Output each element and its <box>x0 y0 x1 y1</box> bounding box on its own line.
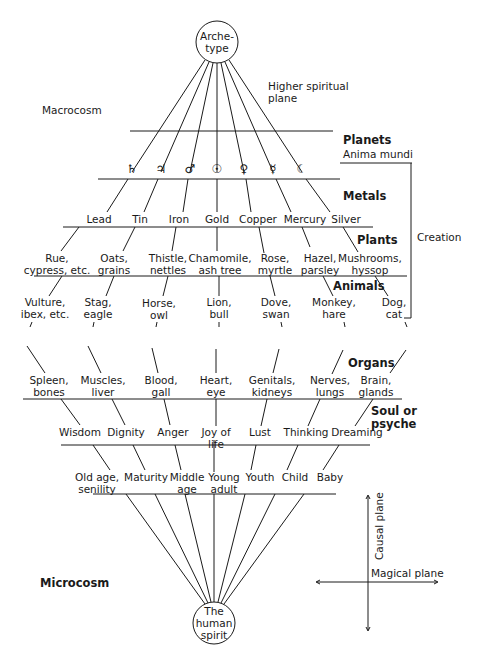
psyche-item: Dreaming <box>331 426 383 438</box>
animal-item: Horse, owl <box>142 297 176 321</box>
psyche-item: Joy of life <box>201 426 230 450</box>
psyche-item: Wisdom <box>59 426 101 438</box>
diagram-lines <box>0 0 477 664</box>
plant-item: Oats, grains <box>98 252 130 276</box>
organ-item: Heart, eye <box>200 374 233 398</box>
organ-item: Spleen, bones <box>29 374 68 398</box>
psyche-item: Anger <box>157 426 188 438</box>
microcosm-label: Microcosm <box>40 577 109 590</box>
causal-plane-label: Causal plane <box>373 492 385 560</box>
plant-item: Hazel, parsley <box>301 252 339 276</box>
creation-label: Creation <box>417 231 461 243</box>
animal-item: Stag, eagle <box>84 296 113 320</box>
animal-item: Dog, cat <box>382 296 407 320</box>
metal-item: Gold <box>205 213 229 225</box>
human-spirit-node: The human spirit <box>196 605 233 641</box>
metal-item: Silver <box>331 213 361 225</box>
mercury-symbol-icon: ☿ <box>269 163 276 175</box>
organ-item: Nerves, lungs <box>310 374 350 398</box>
mars-symbol-icon: ♂ <box>185 163 196 175</box>
venus-symbol-icon: ♀ <box>240 163 249 175</box>
organ-item: Muscles, liver <box>80 374 125 398</box>
macrocosm-label: Macrocosm <box>42 104 102 116</box>
psyche-item: Lust <box>249 426 271 438</box>
jupiter-symbol-icon: ♃ <box>156 163 167 175</box>
age-item: Young adult <box>208 471 239 495</box>
metal-item: Iron <box>169 213 189 225</box>
sun-symbol-icon: ☉ <box>212 163 223 175</box>
planets-title: Planets <box>343 134 391 147</box>
organ-item: Blood, gall <box>145 374 178 398</box>
organs-title: Organs <box>348 357 394 370</box>
psyche-item: Dignity <box>107 426 145 438</box>
plant-item: Mushrooms, hyssop <box>338 252 402 276</box>
animal-item: Dove, swan <box>261 296 292 320</box>
psyche-item: Thinking <box>284 426 329 438</box>
plants-title: Plants <box>357 234 398 247</box>
age-item: Maturity <box>124 471 168 483</box>
metal-item: Mercury <box>284 213 327 225</box>
age-item: Middle age <box>170 471 205 495</box>
archetype-node: Arche- type <box>200 30 234 54</box>
organ-item: Genitals, kidneys <box>249 374 295 398</box>
higher-spiritual-plane-label: Higher spiritual plane <box>268 80 349 104</box>
metal-item: Copper <box>239 213 277 225</box>
saturn-symbol-icon: ♄ <box>127 163 138 175</box>
animal-item: Monkey, hare <box>312 296 356 320</box>
plant-item: Rose, myrtle <box>258 252 292 276</box>
age-item: Baby <box>317 471 344 483</box>
age-item: Youth <box>246 471 275 483</box>
plant-item: Thistle, nettles <box>149 252 187 276</box>
metal-item: Lead <box>86 213 111 225</box>
magical-plane-label: Magical plane <box>371 567 444 579</box>
moon-symbol-icon: ☾ <box>297 163 308 175</box>
animal-item: Vulture, ibex, etc. <box>21 296 69 320</box>
plant-item: Chamomile, ash tree <box>189 252 252 276</box>
organ-item: Brain, glands <box>359 374 394 398</box>
animal-item: Lion, bull <box>206 296 231 320</box>
correspondence-diagram: Arche- type The human spirit Macrocosm M… <box>0 0 477 664</box>
age-item: Child <box>282 471 309 483</box>
metals-title: Metals <box>343 190 386 203</box>
animals-title: Animals <box>333 280 385 293</box>
metal-item: Tin <box>132 213 148 225</box>
plant-item: Rue, cypress, etc. <box>24 252 91 276</box>
age-item: Old age, senility <box>75 471 119 495</box>
anima-mundi-subtitle: Anima mundi <box>343 148 413 160</box>
